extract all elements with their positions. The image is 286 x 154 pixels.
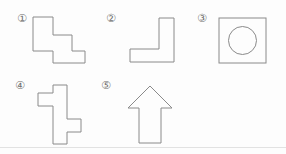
figure-label-1: ① <box>17 13 27 24</box>
figure-2-l-shape-polygon <box>130 18 178 64</box>
figure-1-staircase-polygon <box>33 17 89 65</box>
square-outline <box>219 18 266 63</box>
figure-label-3: ③ <box>197 13 207 24</box>
staircase-polygon-path <box>33 17 85 63</box>
staircase-polygon-svg <box>33 17 89 65</box>
l-shape-polygon-svg <box>130 18 178 64</box>
figure-label-2: ② <box>106 13 116 24</box>
figure-5-up-arrow-polygon <box>127 86 173 144</box>
square-with-circle-svg <box>219 18 267 64</box>
baseline-rule <box>0 147 286 148</box>
inner-circle <box>229 27 257 55</box>
up-arrow-polygon-svg <box>127 86 173 144</box>
figure-4-offset-cross-polygon <box>38 85 82 145</box>
l-shape-polygon-path <box>130 18 174 62</box>
up-arrow-polygon-path <box>128 86 172 143</box>
figure-label-5: ⑤ <box>101 80 111 91</box>
figure-label-4: ④ <box>15 80 25 91</box>
figure-3-square-with-circle <box>219 18 267 64</box>
offset-cross-polygon-path <box>38 85 81 144</box>
figure-sheet: ① ② ③ ④ ⑤ <box>0 0 286 154</box>
offset-cross-polygon-svg <box>38 85 82 145</box>
